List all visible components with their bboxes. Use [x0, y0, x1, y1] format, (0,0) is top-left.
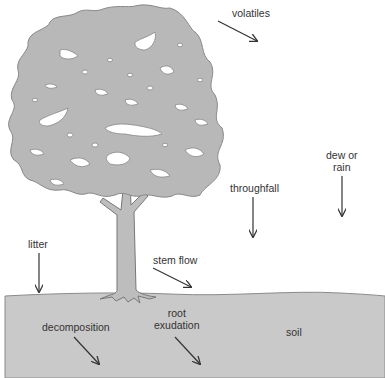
- label-root-exudation-line1: root: [154, 307, 200, 319]
- stem-flow-arrow: [153, 268, 191, 287]
- label-root-exudation-line2: exudation: [154, 319, 200, 331]
- tree-canopy: [9, 5, 224, 197]
- tree-flux-diagram: volatiles dew or rain throughfall litter…: [0, 0, 385, 378]
- label-throughfall: throughfall: [230, 182, 279, 194]
- soil-region: [5, 292, 385, 378]
- tree-trunk: [100, 180, 156, 303]
- label-volatiles: volatiles: [232, 7, 270, 19]
- label-dew-or-rain: dew or rain: [326, 149, 358, 173]
- label-stem-flow: stem flow: [153, 254, 197, 266]
- label-dew-or-rain-line2: rain: [326, 161, 358, 173]
- label-root-exudation: root exudation: [154, 307, 200, 331]
- label-dew-or-rain-line1: dew or: [326, 149, 358, 161]
- volatiles-arrow: [218, 21, 257, 41]
- label-litter: litter: [28, 238, 48, 250]
- label-soil: soil: [286, 326, 302, 338]
- label-decomposition: decomposition: [42, 321, 110, 333]
